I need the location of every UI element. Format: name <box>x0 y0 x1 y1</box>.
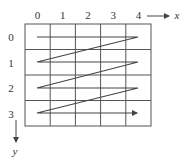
row-label: 2 <box>8 82 14 94</box>
x-axis: x <box>147 9 180 21</box>
y-axis: y <box>12 120 18 157</box>
column-label: 1 <box>60 9 66 21</box>
column-label: 3 <box>110 9 116 21</box>
column-labels: 0 1 2 3 4 <box>35 9 142 21</box>
scan-order-diagram: 0 1 2 3 4 0 1 2 3 x y <box>0 0 191 165</box>
y-axis-label: y <box>12 145 18 157</box>
row-labels: 0 1 2 3 <box>8 31 14 120</box>
column-label: 2 <box>85 9 91 21</box>
column-label: 4 <box>136 9 142 21</box>
column-label: 0 <box>35 9 41 21</box>
row-label: 1 <box>8 57 14 69</box>
x-axis-label: x <box>174 9 180 21</box>
row-label: 3 <box>8 108 14 120</box>
row-label: 0 <box>8 31 14 43</box>
